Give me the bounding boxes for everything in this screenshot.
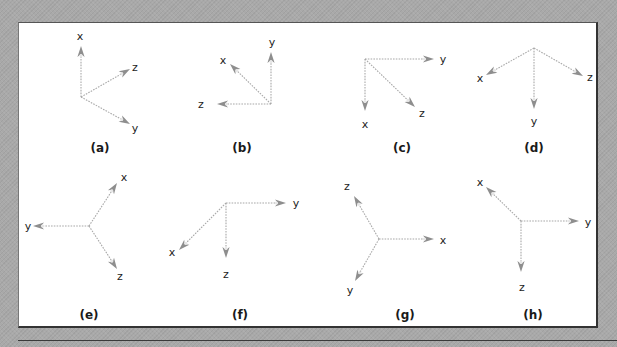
axis-line bbox=[359, 239, 379, 273]
diagram-caption: (f) bbox=[232, 308, 248, 322]
axis-line bbox=[359, 204, 379, 239]
axes-diagram: xzy(a) bbox=[77, 30, 139, 155]
diagram-caption: (a) bbox=[90, 141, 109, 155]
axis-y: y bbox=[521, 216, 592, 229]
axis-line bbox=[81, 73, 122, 97]
axis-label: y bbox=[25, 220, 32, 233]
arrow-notch bbox=[363, 100, 366, 103]
axis-line bbox=[89, 191, 112, 226]
diagram-caption: (c) bbox=[393, 141, 411, 155]
arrow-head-icon bbox=[108, 183, 117, 194]
axis-label: y bbox=[132, 122, 139, 135]
axis-label: y bbox=[440, 53, 447, 66]
arrow-notch bbox=[357, 203, 360, 206]
arrow-head-icon bbox=[108, 258, 117, 269]
axis-label: x bbox=[440, 234, 447, 247]
axis-label: y bbox=[585, 216, 592, 229]
axes-diagram: zxy(g) bbox=[344, 180, 447, 322]
axis-x: x bbox=[169, 203, 226, 259]
arrow-notch bbox=[573, 70, 576, 73]
axis-z: z bbox=[198, 98, 271, 111]
axis-z: z bbox=[517, 221, 525, 294]
arrow-notch bbox=[491, 192, 494, 195]
arrow-notch bbox=[79, 54, 82, 57]
axis-line bbox=[492, 193, 521, 221]
axis-y: y bbox=[81, 97, 139, 135]
axis-line bbox=[236, 70, 271, 104]
axis-label: z bbox=[519, 281, 525, 294]
arrow-notch bbox=[275, 201, 278, 204]
arrow-notch bbox=[225, 102, 228, 105]
axis-label: z bbox=[198, 98, 204, 111]
arrow-notch bbox=[519, 261, 522, 264]
axes-diagram: yxz(f) bbox=[169, 197, 300, 322]
arrow-notch bbox=[493, 69, 496, 72]
axis-y: y bbox=[347, 239, 379, 297]
axis-label: z bbox=[132, 61, 138, 74]
axis-x: x bbox=[477, 176, 521, 221]
diagram-caption: (b) bbox=[232, 141, 252, 155]
axis-x: x bbox=[220, 54, 271, 104]
axis-line bbox=[494, 48, 534, 71]
axis-z: z bbox=[89, 226, 123, 283]
arrow-notch bbox=[358, 271, 361, 274]
axis-label: z bbox=[587, 71, 593, 84]
arrow-notch bbox=[110, 259, 113, 262]
axes-figure: xzy(a)yxz(b)yzx(c)xzy(d)xyz(e)yxz(f)zxy(… bbox=[0, 0, 617, 347]
axes-diagram: yzx(c) bbox=[361, 53, 446, 155]
arrow-head-icon bbox=[486, 187, 496, 197]
arrow-notch bbox=[423, 237, 426, 240]
axis-z: z bbox=[365, 59, 425, 120]
arrow-notch bbox=[120, 72, 123, 75]
axis-label: z bbox=[344, 180, 350, 193]
axis-label: y bbox=[531, 115, 538, 128]
axis-label: z bbox=[419, 107, 425, 120]
axes-diagram: yxz(b) bbox=[198, 36, 276, 155]
axis-z: z bbox=[534, 48, 593, 84]
axis-x: x bbox=[379, 234, 447, 247]
axis-label: x bbox=[477, 176, 484, 189]
axis-x: x bbox=[361, 59, 368, 131]
axis-y: y bbox=[530, 48, 537, 128]
arrow-notch bbox=[184, 242, 187, 245]
axis-x: x bbox=[77, 30, 85, 97]
axis-line bbox=[534, 48, 575, 72]
axis-y: y bbox=[25, 220, 89, 233]
axis-z: z bbox=[222, 203, 229, 281]
axis-z: z bbox=[81, 61, 138, 97]
axis-line bbox=[89, 226, 112, 261]
axis-y: y bbox=[226, 197, 300, 210]
arrow-notch bbox=[423, 57, 426, 60]
axis-label: y bbox=[347, 284, 354, 297]
arrow-notch bbox=[568, 219, 571, 222]
axis-label: x bbox=[220, 54, 227, 67]
axis-y: y bbox=[365, 53, 447, 66]
arrow-notch bbox=[110, 189, 113, 192]
axis-label: x bbox=[77, 30, 84, 43]
axis-label: x bbox=[169, 246, 176, 259]
axis-label: y bbox=[293, 197, 300, 210]
diagram-caption: (h) bbox=[523, 308, 543, 322]
axis-line bbox=[365, 59, 409, 101]
arrow-notch bbox=[120, 118, 123, 121]
axes-diagram: xyz(h) bbox=[477, 176, 592, 322]
arrow-notch bbox=[407, 99, 410, 102]
axis-x: x bbox=[89, 171, 128, 226]
axis-label: z bbox=[117, 270, 123, 283]
arrow-notch bbox=[41, 224, 44, 227]
arrow-notch bbox=[224, 247, 227, 250]
axis-label: x bbox=[477, 72, 484, 85]
diagram-caption: (d) bbox=[524, 141, 544, 155]
arrow-notch bbox=[532, 98, 535, 101]
axis-label: x bbox=[362, 118, 369, 131]
axis-y: y bbox=[267, 36, 275, 104]
arrow-notch bbox=[269, 60, 272, 63]
axis-x: x bbox=[477, 48, 534, 85]
axis-label: x bbox=[121, 171, 128, 184]
diagram-caption: (g) bbox=[395, 308, 415, 322]
axis-line bbox=[81, 97, 122, 120]
axis-label: z bbox=[223, 268, 229, 281]
axes-diagram: xyz(e) bbox=[25, 171, 128, 322]
axis-label: y bbox=[269, 36, 276, 49]
axes-diagram: xzy(d) bbox=[477, 48, 593, 155]
